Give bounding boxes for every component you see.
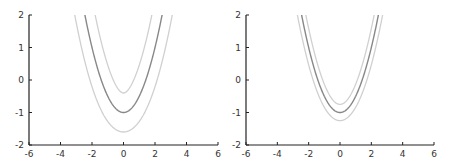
x-tick-label: -4 (273, 149, 282, 159)
plot-panel-2: -6-4-20246-2-1012 (232, 0, 437, 159)
chart-figure: -6-4-20246-2-1012-6-4-20246-2-1012 (0, 0, 451, 163)
inner-offset-curve (70, 0, 178, 93)
x-tick-label: 0 (337, 149, 343, 159)
x-tick-label: 0 (121, 149, 127, 159)
x-tick-label: 6 (215, 149, 221, 159)
x-tick-label: -6 (25, 149, 34, 159)
x-tick-label: -4 (56, 149, 65, 159)
y-tick-label: 0 (235, 75, 241, 85)
base-curve (61, 0, 187, 113)
y-tick-label: 2 (235, 10, 241, 20)
curves (274, 0, 407, 121)
x-tick-label: -2 (88, 149, 97, 159)
x-tick-label: -2 (304, 149, 313, 159)
y-tick-label: -1 (232, 108, 241, 118)
y-tick-label: -2 (15, 140, 24, 150)
base-curve (277, 0, 402, 113)
x-tick-label: -6 (242, 149, 251, 159)
y-tick-label: -2 (232, 140, 241, 150)
y-tick-label: -1 (15, 108, 24, 118)
plot-panel-1: -6-4-20246-2-1012 (15, 0, 221, 159)
inner-offset-curve (281, 0, 399, 104)
curves (51, 0, 195, 132)
x-tick-label: 6 (431, 149, 437, 159)
y-tick-label: 1 (235, 43, 241, 53)
y-tick-label: 0 (18, 75, 24, 85)
y-tick-label: 2 (18, 10, 24, 20)
x-tick-label: 4 (184, 149, 190, 159)
x-tick-label: 2 (368, 149, 374, 159)
x-tick-label: 2 (152, 149, 158, 159)
outer-offset-curve (274, 0, 407, 121)
y-tick-label: 1 (18, 43, 24, 53)
x-tick-label: 4 (400, 149, 406, 159)
